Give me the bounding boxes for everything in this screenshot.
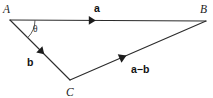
vector-label-b: b <box>27 56 33 68</box>
vector-label-a: a <box>94 2 100 14</box>
vertex-label-c: C <box>66 86 74 98</box>
vertex-label-a: A <box>2 3 11 15</box>
vector-triangle-canvas: A B C a b a−b θ <box>0 0 213 98</box>
vertex-label-b: B <box>200 3 207 15</box>
edge-a-to-b <box>10 20 206 21</box>
angle-label-theta: θ <box>33 24 38 34</box>
vector-triangle-diagram: A B C a b a−b θ <box>0 0 213 98</box>
vector-label-a-minus-b: a−b <box>131 63 149 75</box>
arrowhead-vector-a <box>89 16 96 25</box>
